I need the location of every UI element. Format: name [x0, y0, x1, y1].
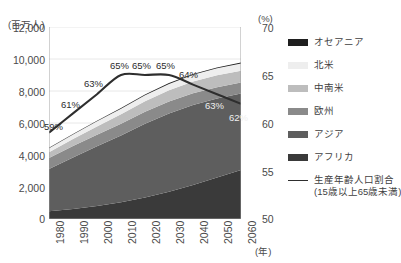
x-axis-unit: (年) — [255, 244, 271, 258]
line-data-label: 65% — [110, 60, 129, 71]
x-tick: 2060 — [246, 221, 258, 244]
line-data-label: 65% — [132, 60, 151, 71]
legend-item[interactable]: アジア — [288, 128, 394, 151]
x-tick: 2050 — [222, 221, 234, 244]
line-data-label: 64% — [179, 69, 198, 80]
y-tick-right: 55 — [262, 166, 288, 178]
legend-item[interactable]: 生産年齢人口割合(15歳以上65歳未満) — [288, 174, 394, 204]
clipped-top-text — [0, 0, 396, 6]
legend-item[interactable]: オセアニア — [288, 36, 394, 59]
x-tick: 1990 — [78, 221, 90, 244]
y-tick-right: 50 — [262, 213, 288, 225]
stacked-areas — [49, 63, 241, 219]
legend-item-label: オセアニア — [314, 36, 364, 48]
legend-swatch-icon — [288, 62, 308, 69]
legend-item-label: 生産年齢人口割合 — [314, 174, 401, 186]
line-data-label: 59% — [44, 121, 63, 132]
x-tick: 2030 — [174, 221, 186, 244]
legend-swatch-icon — [288, 39, 308, 46]
y-tick-left: 4,000 — [1, 150, 45, 162]
plot-svg — [49, 27, 241, 219]
y-tick-left: 8,000 — [1, 86, 45, 98]
line-data-label: 63% — [205, 100, 224, 111]
legend-item-label: アジア — [314, 128, 344, 140]
y-tick-left: 10,000 — [1, 54, 45, 66]
legend-item[interactable]: 欧州 — [288, 105, 394, 128]
legend-swatch-icon — [288, 154, 308, 161]
y-tick-left: 0 — [1, 213, 45, 225]
legend-swatch-icon — [288, 108, 308, 115]
legend: オセアニア北米中南米欧州アジアアフリカ生産年齢人口割合(15歳以上65歳未満) — [288, 36, 394, 204]
x-tick: 2040 — [198, 221, 210, 244]
legend-swatch-icon — [288, 85, 308, 92]
x-tick: 2010 — [126, 221, 138, 244]
y-tick-right: 60 — [262, 118, 288, 130]
legend-line-icon — [288, 180, 308, 181]
legend-item-sublabel: (15歳以上65歳未満) — [314, 186, 401, 198]
legend-item[interactable]: アフリカ — [288, 151, 394, 174]
y-tick-left: 12,000 — [1, 22, 45, 34]
line-data-label: 65% — [156, 60, 175, 71]
y-tick-right: 70 — [262, 22, 288, 34]
line-data-label: 63% — [84, 78, 103, 89]
x-tick: 2020 — [150, 221, 162, 244]
legend-item-label: アフリカ — [314, 151, 354, 163]
legend-item-label: 欧州 — [314, 105, 334, 117]
legend-item[interactable]: 中南米 — [288, 82, 394, 105]
legend-item[interactable]: 北米 — [288, 59, 394, 82]
x-tick: 2000 — [102, 221, 114, 244]
line-data-label: 61% — [61, 99, 80, 110]
legend-item-label: 北米 — [314, 59, 334, 71]
legend-swatch-icon — [288, 131, 308, 138]
x-tick: 1980 — [54, 221, 66, 244]
plot-area — [49, 27, 241, 219]
line-data-label: 62% — [229, 112, 248, 123]
y-tick-right: 65 — [262, 70, 288, 82]
legend-item-label: 中南米 — [314, 82, 344, 94]
y-tick-left: 6,000 — [1, 118, 45, 130]
y-tick-left: 2,000 — [1, 182, 45, 194]
